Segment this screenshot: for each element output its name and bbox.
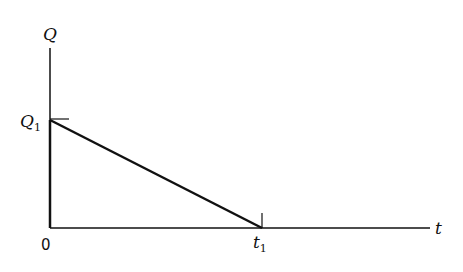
diagram-canvas: Q t 0 Q1 t1	[0, 0, 463, 272]
q1-label-subscript: 1	[34, 121, 41, 134]
t1-label: t1	[253, 232, 267, 255]
q1-label-main: Q	[20, 111, 34, 131]
q1-label: Q1	[20, 111, 41, 134]
origin-label: 0	[41, 236, 51, 254]
t1-label-subscript: 1	[260, 242, 267, 255]
q-decay-line	[50, 120, 262, 228]
x-axis-label: t	[435, 218, 442, 238]
y-axis-label: Q	[43, 24, 57, 44]
